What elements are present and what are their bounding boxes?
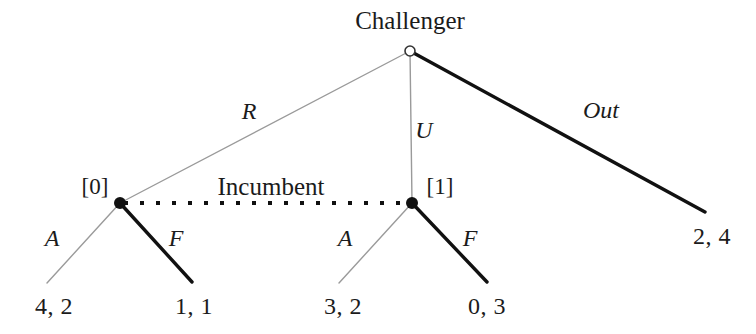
information-set-dot (188, 201, 192, 205)
information-set-dot (300, 201, 304, 205)
edge-label-out: Out (583, 98, 619, 122)
information-set-dot (380, 201, 384, 205)
information-set-dot (172, 201, 176, 205)
left-node-index-label: [0] (82, 175, 109, 198)
left-decision-node[interactable] (114, 197, 126, 209)
right-node-index-label: [1] (427, 175, 454, 198)
tree-canvas (0, 0, 756, 334)
edge-label-left-f: F (169, 226, 184, 250)
root-node[interactable] (405, 46, 415, 56)
root-player-label: Challenger (355, 8, 465, 33)
information-set-dot (156, 201, 160, 205)
edge-root-to-right (410, 51, 412, 203)
information-set-dot (204, 201, 208, 205)
information-set-dot (220, 201, 224, 205)
information-set-dotted-line (124, 201, 400, 205)
information-set-dot (252, 201, 256, 205)
payoff-U-F: 0, 3 (468, 294, 506, 318)
edge-label-right-f: F (463, 226, 478, 250)
edge-label-left-a: A (45, 226, 60, 250)
payoff-R-F: 1, 1 (175, 294, 213, 318)
payoff-R-A: 4, 2 (35, 294, 73, 318)
information-set-dot (284, 201, 288, 205)
edge-root-to-out (410, 51, 705, 212)
edge-label-r: R (242, 99, 257, 123)
information-set-dot (236, 201, 240, 205)
information-set-dot (332, 201, 336, 205)
information-set-dot (396, 201, 400, 205)
information-set-dot (364, 201, 368, 205)
information-set-dot (348, 201, 352, 205)
information-set-dot (316, 201, 320, 205)
information-set-dot (268, 201, 272, 205)
edge-label-u: U (415, 118, 432, 142)
payoff-Out: 2, 4 (693, 224, 731, 248)
right-decision-node[interactable] (406, 197, 418, 209)
information-set-dot (140, 201, 144, 205)
information-set-player-label: Incumbent (218, 174, 325, 199)
edge-label-right-a: A (338, 226, 353, 250)
game-tree-figure: Challenger Incumbent [0] [1] R U Out A F… (0, 0, 756, 334)
payoff-U-A: 3, 2 (324, 294, 362, 318)
